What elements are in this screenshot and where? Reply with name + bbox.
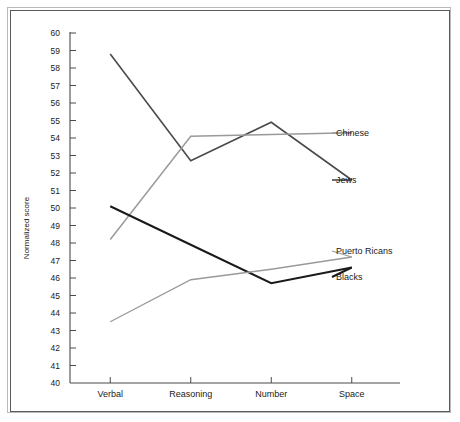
y-tick-label: 53 bbox=[51, 151, 61, 161]
series-lines bbox=[110, 54, 352, 322]
y-tick-label: 54 bbox=[51, 133, 61, 143]
line-chart: 4041424344454647484950515253545556575859… bbox=[0, 0, 460, 422]
series-label-chinese: Chinese bbox=[336, 128, 369, 138]
y-tick-label: 42 bbox=[51, 343, 61, 353]
y-tick-label: 40 bbox=[51, 378, 61, 388]
chart-page: 4041424344454647484950515253545556575859… bbox=[0, 0, 460, 422]
x-axis-tick-marks bbox=[110, 377, 352, 383]
x-tick-label: Reasoning bbox=[169, 389, 212, 399]
y-axis-tick-marks bbox=[70, 33, 76, 366]
y-tick-label: 41 bbox=[51, 361, 61, 371]
y-tick-label: 44 bbox=[51, 308, 61, 318]
y-tick-label: 43 bbox=[51, 326, 61, 336]
y-tick-label: 50 bbox=[51, 203, 61, 213]
axis-lines bbox=[70, 32, 400, 383]
x-tick-label: Space bbox=[339, 389, 365, 399]
series-line-jews bbox=[110, 54, 352, 180]
x-tick-label: Number bbox=[255, 389, 287, 399]
series-label-blacks: Blacks bbox=[336, 272, 363, 282]
y-tick-label: 58 bbox=[51, 63, 61, 73]
y-tick-label: 48 bbox=[51, 238, 61, 248]
y-tick-label: 47 bbox=[51, 256, 61, 266]
series-label-jews: Jews bbox=[336, 175, 357, 185]
y-tick-label: 51 bbox=[51, 186, 61, 196]
y-tick-label: 56 bbox=[51, 98, 61, 108]
series-line-blacks bbox=[110, 206, 352, 283]
y-tick-label: 52 bbox=[51, 168, 61, 178]
y-tick-label: 59 bbox=[51, 46, 61, 56]
y-axis-title-text: Normalized score bbox=[22, 196, 31, 259]
y-tick-label: 45 bbox=[51, 291, 61, 301]
y-tick-label: 55 bbox=[51, 116, 61, 126]
y-tick-label: 60 bbox=[51, 28, 61, 38]
y-tick-label: 49 bbox=[51, 221, 61, 231]
x-tick-label: Verbal bbox=[97, 389, 123, 399]
y-tick-label: 57 bbox=[51, 81, 61, 91]
series-line-puerto-ricans bbox=[110, 257, 352, 322]
y-axis-tick-labels: 4041424344454647484950515253545556575859… bbox=[51, 28, 61, 388]
y-axis-title: Normalized score bbox=[22, 196, 31, 259]
series-label-puerto-ricans: Puerto Ricans bbox=[336, 246, 393, 256]
y-tick-label: 46 bbox=[51, 273, 61, 283]
x-axis-category-labels: VerbalReasoningNumberSpace bbox=[97, 389, 364, 399]
